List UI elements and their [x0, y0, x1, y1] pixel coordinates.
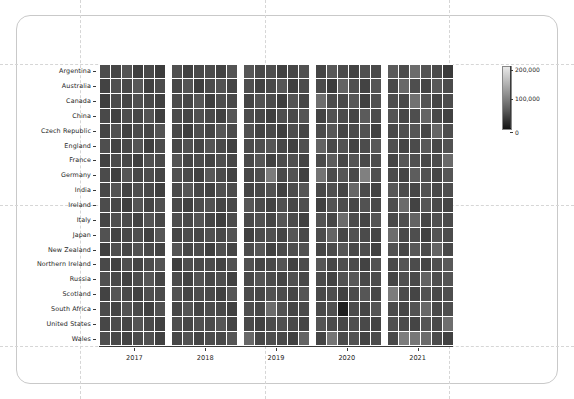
heatmap-cell[interactable] — [399, 198, 409, 212]
heatmap-cell[interactable] — [183, 332, 193, 346]
heatmap-cell[interactable] — [327, 272, 337, 286]
heatmap-cell[interactable] — [155, 124, 165, 138]
heatmap-cell[interactable] — [183, 317, 193, 331]
heatmap-cell[interactable] — [100, 198, 110, 212]
heatmap-cell[interactable] — [277, 124, 287, 138]
heatmap-cell[interactable] — [133, 79, 143, 93]
heatmap-cell[interactable] — [421, 198, 431, 212]
heatmap-cell[interactable] — [371, 154, 381, 168]
heatmap-cell[interactable] — [227, 302, 237, 316]
heatmap-cell[interactable] — [299, 317, 309, 331]
heatmap-cell[interactable] — [155, 79, 165, 93]
heatmap-cell[interactable] — [421, 168, 431, 182]
heatmap-cell[interactable] — [205, 139, 215, 153]
heatmap-cell[interactable] — [399, 109, 409, 123]
heatmap-cell[interactable] — [432, 183, 442, 197]
heatmap-cell[interactable] — [144, 168, 154, 182]
heatmap-cell[interactable] — [371, 213, 381, 227]
heatmap-cell[interactable] — [410, 124, 420, 138]
heatmap-cell[interactable] — [399, 94, 409, 108]
heatmap-cell[interactable] — [388, 109, 398, 123]
heatmap-cell[interactable] — [399, 332, 409, 346]
heatmap-cell[interactable] — [349, 139, 359, 153]
heatmap-cell[interactable] — [410, 258, 420, 272]
heatmap-cell[interactable] — [410, 109, 420, 123]
heatmap-cell[interactable] — [266, 258, 276, 272]
heatmap-cell[interactable] — [216, 183, 226, 197]
heatmap-cell[interactable] — [216, 243, 226, 257]
heatmap-cell[interactable] — [316, 317, 326, 331]
heatmap-cell[interactable] — [255, 154, 265, 168]
heatmap-cell[interactable] — [194, 94, 204, 108]
heatmap-cell[interactable] — [205, 124, 215, 138]
heatmap-cell[interactable] — [122, 65, 132, 79]
heatmap-cell[interactable] — [360, 287, 370, 301]
heatmap-cell[interactable] — [299, 287, 309, 301]
heatmap-cell[interactable] — [133, 109, 143, 123]
heatmap-cell[interactable] — [327, 183, 337, 197]
heatmap-cell[interactable] — [244, 79, 254, 93]
heatmap-cell[interactable] — [255, 65, 265, 79]
heatmap-cell[interactable] — [288, 139, 298, 153]
heatmap-cell[interactable] — [100, 65, 110, 79]
heatmap-cell[interactable] — [227, 79, 237, 93]
heatmap-cell[interactable] — [144, 243, 154, 257]
heatmap-cell[interactable] — [349, 168, 359, 182]
heatmap-cell[interactable] — [144, 65, 154, 79]
heatmap-cell[interactable] — [133, 168, 143, 182]
heatmap-cell[interactable] — [338, 272, 348, 286]
heatmap-cell[interactable] — [144, 228, 154, 242]
heatmap-cell[interactable] — [266, 272, 276, 286]
heatmap-cell[interactable] — [172, 287, 182, 301]
heatmap-cell[interactable] — [216, 124, 226, 138]
heatmap-cell[interactable] — [122, 198, 132, 212]
heatmap-cell[interactable] — [205, 168, 215, 182]
heatmap-cell[interactable] — [244, 198, 254, 212]
heatmap-cell[interactable] — [338, 154, 348, 168]
heatmap-cell[interactable] — [360, 94, 370, 108]
heatmap-cell[interactable] — [244, 258, 254, 272]
heatmap-cell[interactable] — [183, 258, 193, 272]
heatmap-cell[interactable] — [432, 258, 442, 272]
heatmap-cell[interactable] — [299, 213, 309, 227]
heatmap-cell[interactable] — [288, 168, 298, 182]
heatmap-cell[interactable] — [399, 302, 409, 316]
heatmap-cell[interactable] — [299, 332, 309, 346]
heatmap-cell[interactable] — [111, 79, 121, 93]
heatmap-cell[interactable] — [244, 139, 254, 153]
heatmap-cell[interactable] — [122, 228, 132, 242]
heatmap-cell[interactable] — [155, 183, 165, 197]
heatmap-cell[interactable] — [155, 317, 165, 331]
heatmap-cell[interactable] — [299, 154, 309, 168]
heatmap-cell[interactable] — [421, 258, 431, 272]
heatmap-cell[interactable] — [216, 258, 226, 272]
heatmap-cell[interactable] — [133, 198, 143, 212]
heatmap-cell[interactable] — [316, 213, 326, 227]
heatmap-cell[interactable] — [327, 79, 337, 93]
heatmap-cell[interactable] — [338, 332, 348, 346]
heatmap-cell[interactable] — [410, 213, 420, 227]
heatmap-cell[interactable] — [443, 154, 453, 168]
heatmap-cell[interactable] — [172, 79, 182, 93]
heatmap-cell[interactable] — [327, 228, 337, 242]
heatmap-cell[interactable] — [155, 332, 165, 346]
heatmap-cell[interactable] — [371, 79, 381, 93]
heatmap-cell[interactable] — [172, 213, 182, 227]
heatmap-cell[interactable] — [316, 65, 326, 79]
heatmap-cell[interactable] — [100, 302, 110, 316]
heatmap-cell[interactable] — [360, 332, 370, 346]
heatmap-cell[interactable] — [266, 65, 276, 79]
heatmap-cell[interactable] — [133, 287, 143, 301]
heatmap-cell[interactable] — [388, 287, 398, 301]
heatmap-cell[interactable] — [360, 154, 370, 168]
heatmap-cell[interactable] — [111, 183, 121, 197]
heatmap-cell[interactable] — [349, 272, 359, 286]
heatmap-cell[interactable] — [277, 317, 287, 331]
heatmap-cell[interactable] — [227, 287, 237, 301]
heatmap-cell[interactable] — [111, 258, 121, 272]
heatmap-cell[interactable] — [172, 154, 182, 168]
heatmap-cell[interactable] — [360, 243, 370, 257]
heatmap-cell[interactable] — [183, 272, 193, 286]
heatmap-cell[interactable] — [244, 302, 254, 316]
heatmap-cell[interactable] — [111, 332, 121, 346]
